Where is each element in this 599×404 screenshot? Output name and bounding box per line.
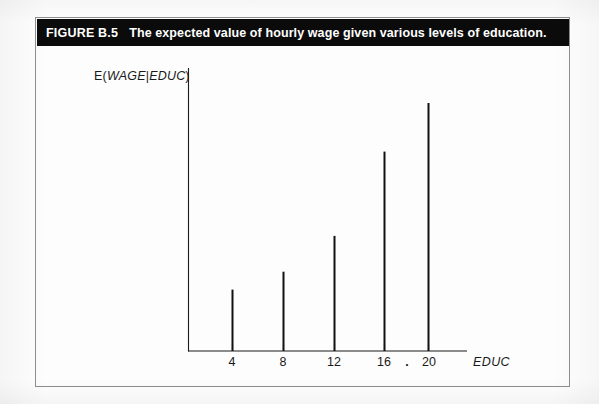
x-tick-label-12: 12 [327, 355, 341, 369]
x-axis-ellipsis-dot: . [405, 355, 408, 369]
x-axis-label: EDUC [473, 355, 510, 369]
x-tick-label-20: 20 [422, 355, 436, 369]
figure-number-label: FIGURE B.5 [37, 26, 118, 40]
x-tick-label-16: 16 [377, 355, 391, 369]
y-axis-label: E(WAGE|EDUC) [94, 69, 190, 83]
x-tick-label-8: 8 [280, 355, 287, 369]
y-axis-label-prefix: E( [94, 69, 107, 83]
figure-caption: The expected value of hourly wage given … [118, 26, 546, 40]
figure-screenshot: FIGURE B.5 The expected value of hourly … [0, 0, 599, 404]
figure-title-bar: FIGURE B.5 The expected value of hourly … [37, 19, 569, 46]
y-axis-label-suffix: ) [185, 69, 189, 83]
y-axis-label-var2: EDUC [149, 69, 185, 83]
y-axis-label-var1: WAGE [107, 69, 146, 83]
x-tick-label-4: 4 [229, 355, 236, 369]
